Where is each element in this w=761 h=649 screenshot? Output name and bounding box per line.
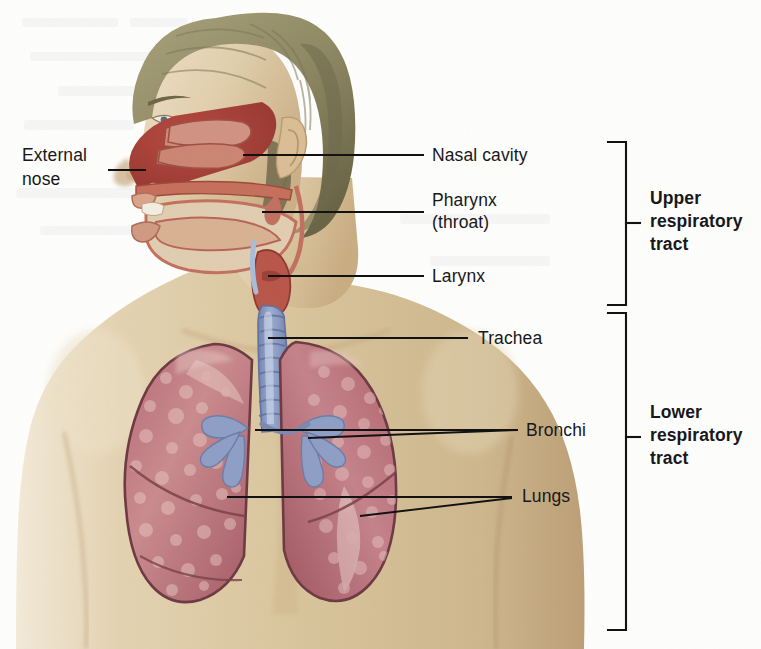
paper-grain [0,0,761,649]
bracket-upper-line3: tract [650,234,688,255]
label-external-nose-line2: nose [22,169,60,190]
label-trachea: Trachea [478,328,542,349]
figure-canvas: External nose Nasal cavity Pharynx (thro… [0,0,761,649]
label-pharynx-line2: (throat) [432,212,489,233]
bracket-lower-line3: tract [650,448,688,469]
label-pharynx-line1: Pharynx [432,190,497,211]
bracket-upper-line2: respiratory [650,211,743,232]
label-external-nose-line1: External [22,145,87,166]
bracket-lower-line1: Lower [650,402,702,423]
label-larynx: Larynx [432,266,485,287]
label-nasal-cavity: Nasal cavity [432,145,528,166]
body-illustration [0,0,761,649]
anatomy-illustration [0,0,761,649]
label-lungs: Lungs [522,486,570,507]
bracket-lower-line2: respiratory [650,425,743,446]
label-bronchi: Bronchi [526,420,586,441]
bracket-upper-line1: Upper [650,188,701,209]
